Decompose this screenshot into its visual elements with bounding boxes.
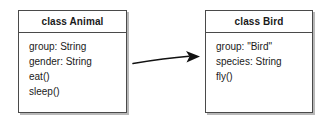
class-member: fly() [216, 69, 312, 84]
class-member: group: "Bird" [216, 39, 312, 54]
inheritance-arrow-line [133, 56, 189, 63]
class-members-bird: group: "Bird" species: String fly() [206, 33, 312, 84]
class-diagram-canvas: class Animal group: String gender: Strin… [0, 0, 326, 123]
class-member: sleep() [29, 84, 126, 99]
class-box-animal[interactable]: class Animal group: String gender: Strin… [18, 10, 127, 113]
class-member: gender: String [29, 54, 126, 69]
class-member: species: String [216, 54, 312, 69]
class-box-bird[interactable]: class Bird group: "Bird" species: String… [205, 10, 313, 113]
class-header-bird: class Bird [206, 11, 312, 33]
class-member: group: String [29, 39, 126, 54]
class-header-animal: class Animal [19, 11, 126, 33]
class-members-animal: group: String gender: String eat() sleep… [19, 33, 126, 99]
inheritance-arrowhead-icon [186, 51, 200, 63]
class-member: eat() [29, 69, 126, 84]
